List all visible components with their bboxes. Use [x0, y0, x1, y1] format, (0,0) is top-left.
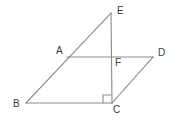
point-label-A: A [56, 45, 63, 56]
figure-canvas: E A F D B C [0, 0, 179, 120]
point-label-C: C [113, 104, 120, 115]
point-label-F: F [115, 57, 121, 68]
segment-BE [26, 13, 111, 103]
geometry-figure: E A F D B C [0, 0, 179, 120]
segment-EC [111, 13, 112, 103]
point-label-E: E [117, 5, 124, 16]
point-label-D: D [158, 47, 165, 58]
point-label-B: B [13, 98, 20, 109]
right-angle-mark-at-C [103, 95, 111, 103]
